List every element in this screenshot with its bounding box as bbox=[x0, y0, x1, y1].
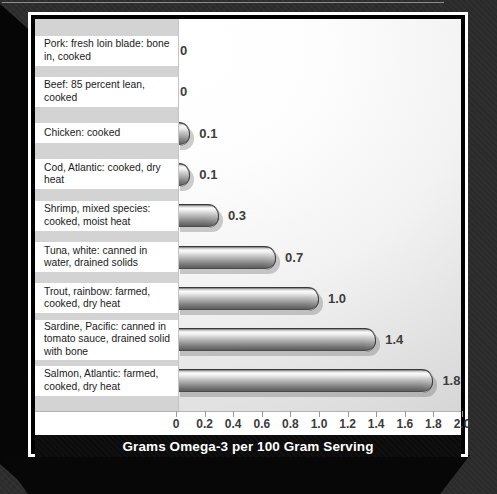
axis-tick-label: 0.2 bbox=[196, 417, 213, 431]
x-axis: 00.20.40.60.81.01.21.41.61.82.0 bbox=[35, 411, 461, 435]
axis-tick-label: 1.0 bbox=[311, 417, 328, 431]
category-label: Pork: fresh loin blade: bone in, cooked bbox=[35, 36, 178, 66]
category-label-panel: Pork: fresh loin blade: bone in, cookedB… bbox=[35, 19, 179, 411]
category-label: Shrimp, mixed species: cooked, moist hea… bbox=[35, 201, 178, 231]
axis-tick-label: 0.6 bbox=[253, 417, 270, 431]
category-label: Salmon, Atlantic: farmed, cooked, dry he… bbox=[35, 366, 178, 396]
axis-title-text: Grams Omega-3 per 100 Gram Serving bbox=[122, 439, 373, 454]
category-label: Sardine, Pacific: canned in tomato sauce… bbox=[35, 320, 178, 360]
axis-tick-label: 1.6 bbox=[396, 417, 413, 431]
axis-baseline bbox=[35, 411, 461, 412]
axis-tick-label: 0 bbox=[173, 417, 180, 431]
axis-tick-label: 1.4 bbox=[368, 417, 385, 431]
axis-tick-label: 2.0 bbox=[454, 417, 471, 431]
bevel-bottom-wedge bbox=[0, 455, 470, 494]
category-label: Chicken: cooked bbox=[35, 123, 178, 143]
frame-hairline-top bbox=[2, 2, 495, 3]
axis-tick-label: 1.2 bbox=[339, 417, 356, 431]
axis-title-bar: Grams Omega-3 per 100 Gram Serving bbox=[35, 435, 461, 457]
axis-tick-label: 1.8 bbox=[425, 417, 442, 431]
category-label: Trout, rainbow: farmed, cooked, dry heat bbox=[35, 283, 178, 313]
category-label: Cod, Atlantic: cooked, dry heat bbox=[35, 159, 178, 189]
category-label: Tuna, white: canned in water, drained so… bbox=[35, 242, 178, 272]
category-label: Beef: 85 percent lean, cooked bbox=[35, 77, 178, 107]
axis-tick-label: 0.8 bbox=[282, 417, 299, 431]
axis-tick-label: 0.4 bbox=[225, 417, 242, 431]
